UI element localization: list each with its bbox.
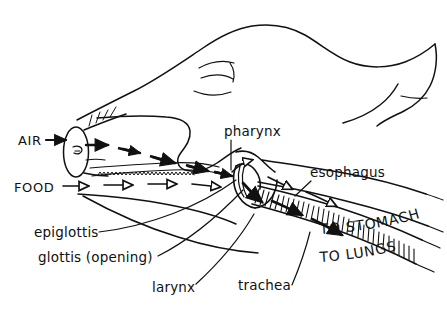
- pharynx-larynx-complex: [234, 151, 277, 208]
- label-air: AIR: [18, 133, 42, 148]
- ear-detail: [194, 62, 234, 95]
- air-flow-arrows: [46, 140, 342, 235]
- leader-trachea: [292, 232, 310, 285]
- anatomy-diagram: AIR FOOD pharynx esophagus epiglottis gl…: [0, 0, 447, 311]
- label-esophagus: esophagus: [310, 164, 385, 180]
- text-labels: AIR FOOD pharynx esophagus epiglottis gl…: [14, 123, 422, 295]
- label-larynx: larynx: [152, 279, 195, 295]
- label-food: FOOD: [14, 180, 54, 195]
- label-to-lungs: TO LUNGS: [318, 238, 398, 265]
- label-glottis: glottis (opening): [38, 249, 153, 265]
- label-pharynx: pharynx: [224, 123, 281, 139]
- leader-glottis: [158, 190, 243, 256]
- nasal-cavity-palate: [90, 116, 241, 171]
- label-trachea: trachea: [238, 277, 291, 293]
- tongue: [78, 170, 258, 253]
- figure-canvas: AIR FOOD pharynx esophagus epiglottis gl…: [0, 0, 447, 311]
- head-outline: [77, 25, 436, 126]
- label-epiglottis: epiglottis: [34, 224, 99, 240]
- leader-epiglottis: [99, 180, 236, 232]
